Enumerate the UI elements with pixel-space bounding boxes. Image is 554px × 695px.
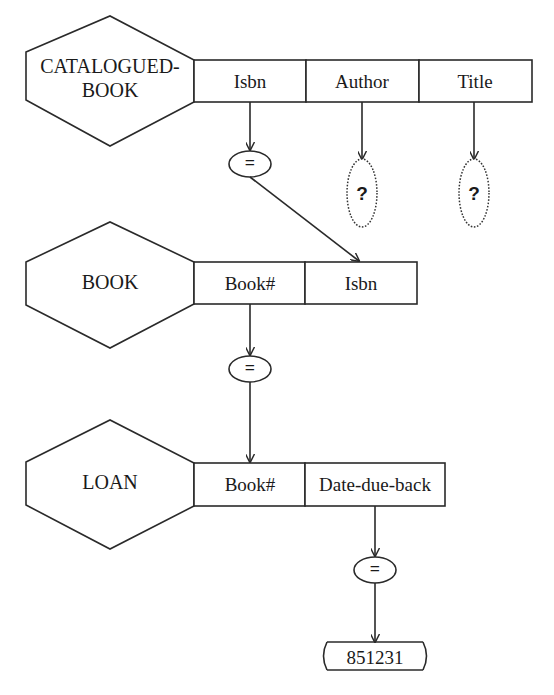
entity-name-line2: BOOK bbox=[82, 79, 139, 101]
query-diagram: CATALOGUED- BOOK Isbn Author Title = ? ?… bbox=[0, 0, 554, 695]
operator-equals-1[interactable]: = bbox=[229, 151, 271, 177]
operator-symbol: = bbox=[245, 153, 255, 173]
constant-right-bracket bbox=[423, 642, 427, 670]
output-question-mark: ? bbox=[468, 183, 480, 204]
operator-symbol: = bbox=[370, 559, 380, 579]
operator-equals-2[interactable]: = bbox=[229, 356, 271, 382]
attr-label-date-due-back: Date-due-back bbox=[319, 474, 431, 495]
attr-label-title: Title bbox=[457, 71, 492, 92]
operator-symbol: = bbox=[245, 358, 255, 378]
output-title[interactable]: ? bbox=[459, 159, 489, 227]
attribute-table-book: Book# Isbn bbox=[194, 262, 417, 304]
entity-name-line1: CATALOGUED- bbox=[40, 55, 180, 77]
output-author[interactable]: ? bbox=[347, 159, 377, 227]
attr-label-isbn: Isbn bbox=[234, 71, 267, 92]
arrow-eq1-to-book-isbn bbox=[250, 177, 359, 261]
attr-label-isbn: Isbn bbox=[345, 273, 378, 294]
attr-label-book-number: Book# bbox=[225, 474, 276, 495]
constant-left-bracket bbox=[324, 642, 328, 670]
attr-label-author: Author bbox=[335, 71, 390, 92]
constant-value: 851231 bbox=[347, 647, 404, 668]
entity-loan[interactable]: LOAN bbox=[26, 420, 194, 549]
entity-name: BOOK bbox=[82, 271, 139, 293]
output-question-mark: ? bbox=[356, 183, 368, 204]
constant-value-box[interactable]: 851231 bbox=[324, 642, 427, 670]
operator-equals-3[interactable]: = bbox=[354, 557, 396, 583]
attribute-table-loan: Book# Date-due-back bbox=[194, 463, 445, 506]
entity-name: LOAN bbox=[82, 471, 138, 493]
attr-label-book-number: Book# bbox=[225, 273, 276, 294]
entity-book[interactable]: BOOK bbox=[26, 222, 194, 348]
attribute-table-catalogued-book: Isbn Author Title bbox=[194, 60, 532, 102]
entity-catalogued-book[interactable]: CATALOGUED- BOOK bbox=[26, 16, 194, 146]
